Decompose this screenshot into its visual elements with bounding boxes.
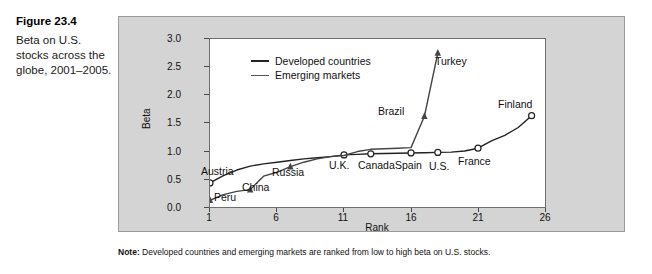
plot-area: Developed countries Emerging markets Aus… xyxy=(209,38,546,208)
point-label-austria: Austria xyxy=(201,166,234,177)
y-tick-label-05: 0.5 xyxy=(155,175,181,185)
x-tick-label-21: 21 xyxy=(467,213,489,223)
note-text: Developed countries and emerging markets… xyxy=(140,247,491,257)
legend-label-developed: Developed countries xyxy=(275,55,371,67)
x-tick-label-1: 1 xyxy=(198,213,220,223)
legend-swatch-emerging-icon xyxy=(251,75,269,76)
y-tick-label-2: 2.0 xyxy=(155,90,181,100)
x-tick-label-6: 6 xyxy=(265,213,287,223)
point-label-turkey: Turkey xyxy=(435,56,467,67)
legend-label-emerging: Emerging markets xyxy=(275,69,360,81)
point-label-finland: Finland xyxy=(498,99,532,110)
point-label-uk: U.K. xyxy=(329,160,349,171)
legend-item-emerging: Emerging markets xyxy=(251,68,371,82)
figure-number: Figure 23.4 xyxy=(16,14,112,28)
point-label-france: France xyxy=(458,156,491,167)
note-label: Note: xyxy=(118,247,140,257)
y-tick-label-0: 0.0 xyxy=(155,203,181,213)
point-label-us: U.S. xyxy=(429,161,449,172)
point-label-spain: Spain xyxy=(395,160,422,171)
figure-note: Note: Developed countries and emerging m… xyxy=(118,247,638,258)
point-label-brazil: Brazil xyxy=(378,106,404,117)
y-tick-label-25: 2.5 xyxy=(155,62,181,72)
y-tick-label-3: 3.0 xyxy=(155,34,181,44)
y-axis-title: Beta xyxy=(141,108,152,129)
chart-legend: Developed countries Emerging markets xyxy=(251,54,371,82)
point-label-china: China xyxy=(242,182,269,193)
x-tick-label-26: 26 xyxy=(534,213,556,223)
legend-item-developed: Developed countries xyxy=(251,54,371,68)
point-label-peru: Peru xyxy=(214,192,236,203)
y-tick-label-1: 1.0 xyxy=(155,147,181,157)
y-tick-label-15: 1.5 xyxy=(155,118,181,128)
point-label-russia: Russia xyxy=(272,167,304,178)
point-label-canada: Canada xyxy=(358,160,395,171)
x-axis-title: Rank xyxy=(347,222,407,233)
legend-swatch-developed-icon xyxy=(251,60,269,62)
figure-caption-block: Figure 23.4 Beta on U.S. stocks across t… xyxy=(16,14,112,78)
chart-panel: Beta 3.0 2.5 2.0 1.5 1.0 0.5 0.0 1 6 11 … xyxy=(118,16,625,232)
figure-caption-text: Beta on U.S. stocks across the globe, 20… xyxy=(16,33,112,78)
